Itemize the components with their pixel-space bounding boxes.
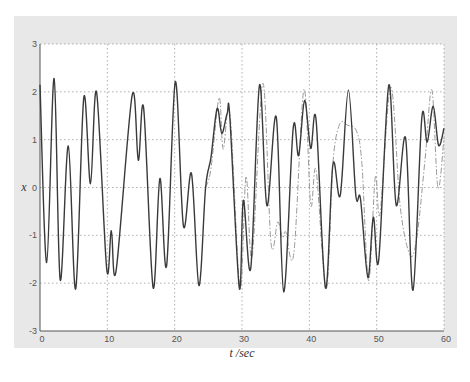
x-axis-label: t /sec <box>230 346 256 360</box>
x-tick-label: 60 <box>441 334 451 344</box>
y-tick-label: 0 <box>32 183 37 193</box>
x-tick-label: 20 <box>172 334 182 344</box>
y-tick-label: 2 <box>32 87 37 97</box>
chart: 0102030405060-3-2-10123 t /sec x <box>0 0 470 382</box>
y-tick-label: -2 <box>29 278 37 288</box>
y-tick-label: -1 <box>29 230 37 240</box>
y-tick-label: 3 <box>32 39 37 49</box>
x-tick-label: 50 <box>374 334 384 344</box>
x-tick-label: 10 <box>104 334 114 344</box>
y-tick-label: 1 <box>32 135 37 145</box>
y-tick-label: -3 <box>29 326 37 336</box>
x-tick-label: 0 <box>39 334 44 344</box>
y-axis-label: x <box>20 180 27 194</box>
x-tick-label: 40 <box>306 334 316 344</box>
x-tick-label: 30 <box>239 334 249 344</box>
